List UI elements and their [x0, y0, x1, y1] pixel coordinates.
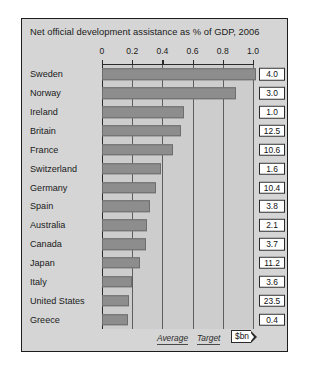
- bar: [102, 238, 146, 250]
- bar: [102, 144, 173, 156]
- category-label: Canada: [30, 239, 62, 249]
- x-axis-tick-labels: 00.20.40.60.81.0: [22, 46, 289, 60]
- value-box: 3.6: [259, 276, 285, 289]
- bar: [102, 182, 156, 194]
- bar: [102, 276, 132, 288]
- value-box: 0.4: [259, 313, 285, 326]
- value-box: 4.0: [259, 68, 285, 81]
- chart-row: Spain3.8: [22, 197, 289, 216]
- chart-row: Sweden4.0: [22, 65, 289, 84]
- x-axis-tick-mark: [223, 60, 224, 65]
- unit-tag: $bn: [231, 330, 257, 343]
- value-box: 11.2: [259, 257, 285, 270]
- x-axis-tick-label: 0.6: [187, 46, 199, 56]
- unit-tag-label: $bn: [231, 330, 251, 343]
- bar: [102, 125, 181, 137]
- chart-row: Switzerland1.6: [22, 159, 289, 178]
- chart-row: Italy3.6: [22, 272, 289, 291]
- category-label: France: [30, 145, 58, 155]
- value-box: 3.0: [259, 87, 285, 100]
- chart-title: Net official development assistance as %…: [30, 26, 282, 37]
- value-box: 12.5: [259, 125, 285, 138]
- bar: [102, 88, 236, 100]
- chart-row: Canada3.7: [22, 235, 289, 254]
- value-box: 2.1: [259, 219, 285, 232]
- value-box: 3.8: [259, 200, 285, 213]
- category-label: United States: [30, 296, 85, 306]
- chart-row: Greece0.4: [22, 310, 289, 329]
- category-label: Ireland: [30, 107, 58, 117]
- chart-row: United States23.5: [22, 291, 289, 310]
- x-axis-tick-label: 0: [100, 46, 105, 56]
- category-label: Britain: [30, 126, 56, 136]
- bar: [102, 257, 140, 269]
- bar: [102, 163, 161, 175]
- chart-panel: Net official development assistance as %…: [21, 18, 288, 352]
- annotation-target: Target: [197, 333, 220, 345]
- x-axis-tick-label: 0.8: [217, 46, 229, 56]
- value-box: 1.0: [259, 106, 285, 119]
- category-label: Switzerland: [30, 164, 77, 174]
- value-box: 3.7: [259, 238, 285, 251]
- chart-row: Norway3.0: [22, 84, 289, 103]
- category-label: Germany: [30, 183, 67, 193]
- value-box: 23.5: [259, 294, 285, 307]
- chart-row: Japan11.2: [22, 254, 289, 273]
- x-axis-tick-mark: [162, 60, 163, 65]
- x-axis-tick-mark: [193, 60, 194, 65]
- chart-row: Germany10.4: [22, 178, 289, 197]
- value-box: 10.6: [259, 144, 285, 157]
- category-label: Australia: [30, 220, 65, 230]
- category-label: Norway: [30, 88, 61, 98]
- chart-row: Ireland1.0: [22, 103, 289, 122]
- value-box: 1.6: [259, 162, 285, 175]
- category-label: Japan: [30, 258, 55, 268]
- x-axis-tick-mark: [253, 60, 254, 65]
- annotation-average: Average: [157, 333, 188, 345]
- x-axis-tick-label: 0.4: [156, 46, 168, 56]
- unit-tag-arrow-icon: [251, 331, 257, 343]
- chart-row: Australia2.1: [22, 216, 289, 235]
- x-axis-tick-label: 1.0: [247, 46, 259, 56]
- value-box: 10.4: [259, 181, 285, 194]
- category-label: Spain: [30, 201, 53, 211]
- x-axis-tick-label: 0.2: [126, 46, 138, 56]
- category-label: Greece: [30, 315, 60, 325]
- bar: [102, 295, 129, 307]
- bar: [102, 69, 256, 81]
- bar: [102, 314, 128, 326]
- bar: [102, 220, 147, 232]
- chart-row: Britain12.5: [22, 122, 289, 141]
- bar: [102, 201, 150, 213]
- bar: [102, 106, 184, 118]
- chart-row: France10.6: [22, 140, 289, 159]
- category-label: Italy: [30, 277, 47, 287]
- x-axis-tick-mark: [132, 60, 133, 65]
- x-axis-tick-mark: [102, 60, 103, 65]
- category-label: Sweden: [30, 69, 63, 79]
